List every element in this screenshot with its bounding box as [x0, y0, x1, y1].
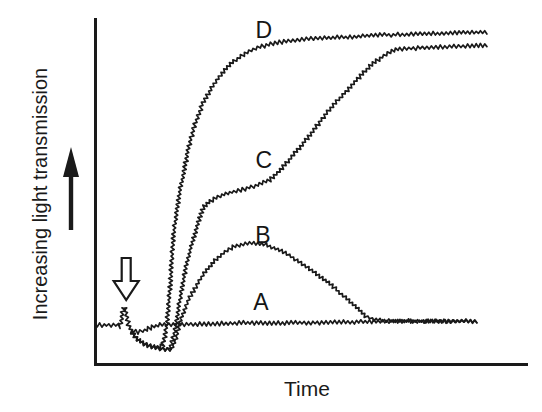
stimulus-addition-arrow-icon [114, 258, 139, 300]
increasing-direction-arrow-icon [63, 147, 79, 230]
figure-canvas: Increasing light transmission A B C D Ti… [0, 0, 542, 412]
curve-label-d: D [256, 17, 273, 43]
curve-D [131, 31, 487, 349]
curve-label-c: C [256, 147, 273, 173]
curve-label-a: A [253, 289, 269, 315]
curve-label-b: B [255, 222, 270, 248]
aggregation-trace-figure: Increasing light transmission A B C D Ti… [0, 0, 542, 412]
y-axis-label: Increasing light transmission [29, 68, 51, 320]
trace-curves-group [95, 31, 487, 352]
curve-B [131, 242, 477, 352]
axis-lines [96, 18, 529, 365]
x-axis-label: Time [284, 377, 330, 400]
